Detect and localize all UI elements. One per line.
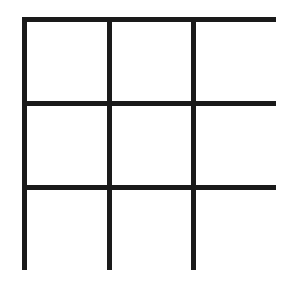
cell-r2-c3[interactable] <box>196 106 276 185</box>
cell-r1-c1[interactable] <box>27 22 107 101</box>
tic-tac-toe-board <box>22 17 276 270</box>
cell-r3-c2[interactable] <box>112 190 191 270</box>
cell-r2-c2[interactable] <box>112 106 191 185</box>
cell-r2-c1[interactable] <box>27 106 107 185</box>
cell-r3-c1[interactable] <box>27 190 107 270</box>
cell-r3-c3[interactable] <box>196 190 276 270</box>
cell-r1-c3[interactable] <box>196 22 276 101</box>
cell-r1-c2[interactable] <box>112 22 191 101</box>
